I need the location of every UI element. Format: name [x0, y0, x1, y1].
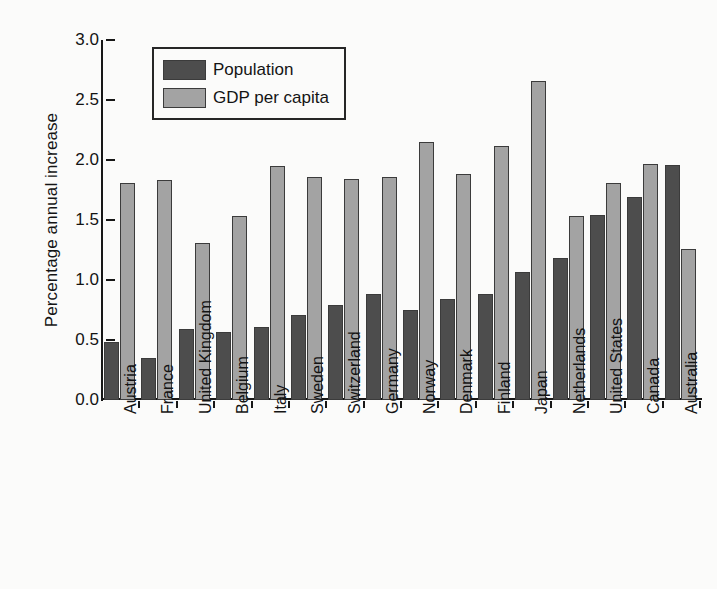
x-axis-label-sweden: Sweden — [310, 356, 326, 414]
x-axis-label-canada: Canada — [646, 358, 662, 414]
chart-figure: Percentage annual increase 0.00.51.01.52… — [0, 0, 717, 589]
x-axis-label-denmark: Denmark — [459, 349, 475, 414]
legend-label: Population — [213, 58, 293, 82]
bar-population[interactable] — [553, 258, 568, 400]
bar-group — [477, 40, 514, 400]
bar-population[interactable] — [478, 294, 493, 400]
x-axis-label-united-states: United States — [609, 318, 625, 414]
bar-population[interactable] — [216, 332, 231, 400]
bar-population[interactable] — [440, 299, 455, 400]
y-axis-tick-label: 0.5 — [75, 330, 99, 350]
x-axis-label-italy: Italy — [273, 385, 289, 414]
bar-population[interactable] — [665, 165, 680, 400]
bar-population[interactable] — [328, 305, 343, 400]
x-axis-label-finland: Finland — [497, 362, 513, 414]
bar-group — [664, 40, 701, 400]
bar-population[interactable] — [590, 215, 605, 400]
x-axis-label-france: France — [160, 364, 176, 414]
x-axis-label-australia: Australia — [684, 352, 700, 414]
x-axis-label-germany: Germany — [385, 348, 401, 414]
bar-population[interactable] — [366, 294, 381, 400]
bar-group — [365, 40, 402, 400]
y-axis-tick-label: 0.0 — [75, 390, 99, 410]
bar-population[interactable] — [291, 315, 306, 400]
x-axis-tick-mark — [176, 401, 178, 408]
bar-gdp-per-capita[interactable] — [531, 81, 546, 400]
bar-group — [402, 40, 439, 400]
bar-gdp-per-capita[interactable] — [270, 166, 285, 400]
bar-population[interactable] — [141, 358, 156, 400]
bar-population[interactable] — [104, 342, 119, 400]
bar-population[interactable] — [179, 329, 194, 400]
x-axis-label-united-kingdom: United Kingdom — [198, 300, 214, 414]
legend-swatch-gdp-per-capita — [163, 88, 206, 108]
bar-population[interactable] — [254, 327, 269, 400]
x-axis-label-netherlands: Netherlands — [572, 328, 588, 414]
bar-group — [103, 40, 140, 400]
bar-group — [626, 40, 663, 400]
bar-population[interactable] — [515, 272, 530, 400]
legend-swatch-population — [163, 60, 206, 80]
y-axis-tick-label: 3.0 — [75, 30, 99, 50]
bar-population[interactable] — [403, 310, 418, 400]
y-axis-tick-label: 2.5 — [75, 90, 99, 110]
x-axis-label-switzerland: Switzerland — [347, 331, 363, 414]
x-axis-label-japan: Japan — [534, 370, 550, 414]
x-axis-tick-mark — [475, 401, 477, 408]
chart-legend: PopulationGDP per capita — [152, 47, 346, 120]
y-axis-tick-label: 1.0 — [75, 270, 99, 290]
x-axis-label-austria: Austria — [123, 364, 139, 414]
bar-population[interactable] — [627, 197, 642, 400]
x-axis-label-belgium: Belgium — [235, 356, 251, 414]
legend-label: GDP per capita — [213, 86, 329, 110]
bar-group — [439, 40, 476, 400]
x-axis-label-norway: Norway — [422, 360, 438, 414]
y-axis-tick-label: 2.0 — [75, 150, 99, 170]
bar-group — [514, 40, 551, 400]
y-axis-tick-label: 1.5 — [75, 210, 99, 230]
